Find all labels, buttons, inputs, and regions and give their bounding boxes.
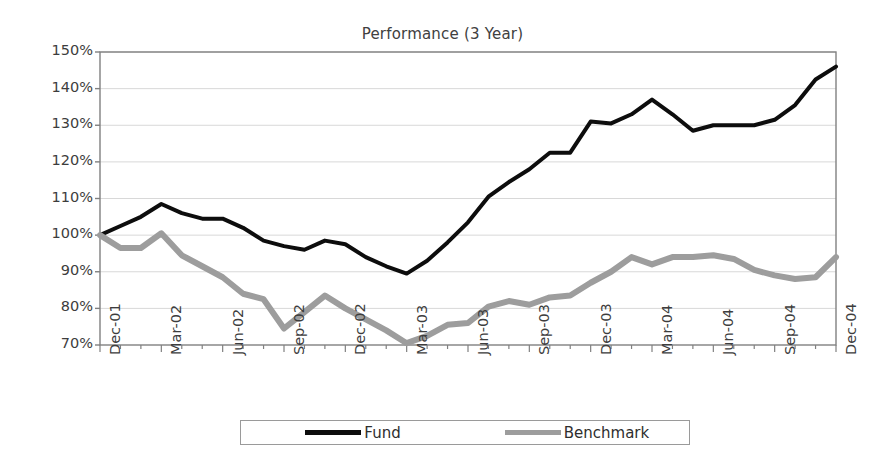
legend-item-fund: Fund (241, 424, 465, 442)
performance-chart: Performance (3 Year) 70%80%90%100%110%12… (0, 0, 885, 469)
x-axis-tick-label: Mar-03 (414, 305, 430, 355)
x-axis-tick-label: Sep-03 (536, 304, 552, 355)
chart-legend: Fund Benchmark (240, 420, 690, 445)
x-axis-tick-label: Dec-02 (352, 303, 368, 355)
y-axis-tick-label: 90% (35, 262, 93, 278)
y-axis-tick-label: 120% (35, 152, 93, 168)
plot-area (0, 0, 885, 469)
y-axis-tick-label: 100% (35, 225, 93, 241)
x-axis-tick-label: Sep-02 (291, 304, 307, 355)
y-axis-tick-label: 150% (35, 42, 93, 58)
fund-line-swatch (305, 430, 361, 435)
x-axis-tick-label: Mar-02 (168, 305, 184, 355)
x-axis-tick-label: Dec-04 (843, 303, 859, 355)
legend-item-benchmark: Benchmark (465, 424, 689, 442)
y-axis-tick-label: 110% (35, 189, 93, 205)
x-axis-tick-label: Jun-03 (475, 309, 491, 355)
x-axis-tick-label: Sep-04 (782, 304, 798, 355)
benchmark-line-swatch (505, 430, 561, 435)
legend-label-benchmark: Benchmark (563, 424, 649, 442)
y-axis-tick-label: 70% (35, 335, 93, 351)
x-axis-tick-label: Dec-01 (107, 303, 123, 355)
y-axis-tick-label: 130% (35, 115, 93, 131)
y-axis-tick-label: 140% (35, 79, 93, 95)
y-axis-ticks (95, 52, 100, 345)
x-axis-tick-label: Jun-04 (720, 309, 736, 355)
legend-label-fund: Fund (363, 424, 400, 442)
y-axis-tick-label: 80% (35, 298, 93, 314)
data-series (100, 67, 836, 344)
x-axis-tick-label: Mar-04 (659, 305, 675, 355)
x-axis-tick-label: Jun-02 (230, 309, 246, 355)
x-axis-tick-label: Dec-03 (598, 303, 614, 355)
